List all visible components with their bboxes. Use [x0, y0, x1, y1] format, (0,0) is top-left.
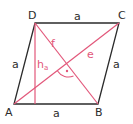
vertex-c-label: C: [118, 9, 126, 22]
side-top-label: a: [74, 10, 81, 23]
vertex-d-label: D: [28, 9, 36, 22]
diagonal-e-label: e: [87, 48, 94, 61]
vertex-a-label: A: [5, 106, 13, 119]
height-label: ha: [37, 58, 48, 72]
diagonal-f-label: f: [51, 37, 56, 50]
side-bottom-label: a: [53, 107, 60, 120]
right-angle-dot: [66, 70, 68, 72]
rhombus-diagram: D C A B a a a a f e ha: [0, 0, 133, 124]
side-right-label: a: [113, 58, 120, 71]
right-angle-arc: [58, 71, 74, 77]
vertex-b-label: B: [95, 106, 103, 119]
side-left-label: a: [12, 58, 19, 71]
